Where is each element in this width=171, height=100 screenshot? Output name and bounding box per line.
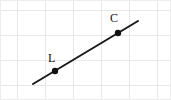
- figure-border: [1, 1, 171, 100]
- point-label-l: L: [48, 52, 55, 64]
- figure-canvas: [0, 0, 171, 100]
- point-marker-l: [52, 68, 58, 74]
- point-label-c: C: [110, 12, 118, 24]
- point-marker-c: [115, 30, 121, 36]
- grid-lines: [0, 0, 171, 100]
- geometry-figure: L C: [0, 0, 171, 100]
